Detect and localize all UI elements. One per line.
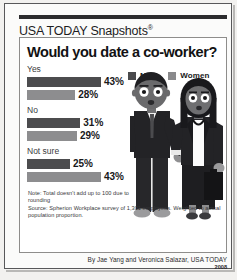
chart-note: Note: Total doesn't add up to 100 due to… xyxy=(28,190,140,203)
brand-rule xyxy=(19,15,227,19)
bar-value-yes-men: 43% xyxy=(104,76,124,87)
bar-value-no-women: 29% xyxy=(80,130,100,141)
bar-row-no-men: 31% xyxy=(27,117,147,128)
bar-row-yes-men: 43% xyxy=(27,76,147,87)
bar-yes-women xyxy=(27,90,75,100)
bar-value-not-sure-women: 43% xyxy=(104,171,124,182)
bar-row-not-sure-men: 25% xyxy=(27,158,147,169)
woman-figure xyxy=(171,78,225,220)
chart-title: Would you date a co-worker? xyxy=(27,44,223,61)
brand-title: USA TODAY Snapshots® xyxy=(19,20,227,35)
bar-not-sure-women xyxy=(27,172,101,182)
bar-chart: Yes 43% 28% No 31% xyxy=(27,64,147,187)
bar-value-yes-women: 28% xyxy=(78,89,98,100)
bar-group-not-sure: Not sure 25% 43% xyxy=(27,146,147,182)
bar-group-label-not-sure: Not sure xyxy=(27,146,147,157)
bar-not-sure-men xyxy=(27,159,70,169)
bar-no-men xyxy=(27,118,80,128)
byline-year: 2008 xyxy=(19,264,227,271)
bar-value-not-sure-men: 25% xyxy=(73,158,93,169)
bar-group-yes: Yes 43% 28% xyxy=(27,64,147,100)
bar-row-yes-women: 28% xyxy=(27,89,147,100)
frame-shadow-right xyxy=(233,5,235,271)
bar-group-label-yes: Yes xyxy=(27,64,147,75)
usa-today-snapshot: USA TODAY Snapshots® Would you date a co… xyxy=(0,0,237,280)
chart-source: Source: Spherion Workplace survey of 1,3… xyxy=(28,205,227,218)
bar-row-not-sure-women: 43% xyxy=(27,171,147,182)
bar-value-no-men: 31% xyxy=(83,117,103,128)
bar-group-label-no: No xyxy=(27,105,147,116)
bar-group-no: No 31% 29% xyxy=(27,105,147,141)
registered-mark-icon: ® xyxy=(148,24,153,31)
byline-credit: By Jae Yang and Veronica Salazar, USA TO… xyxy=(19,256,227,264)
bar-yes-men xyxy=(27,77,101,87)
chart-card: Would you date a co-worker? Men Women xyxy=(19,37,227,253)
bar-no-women xyxy=(27,131,77,141)
snapshot-frame: USA TODAY Snapshots® Would you date a co… xyxy=(4,3,232,269)
bar-row-no-women: 29% xyxy=(27,130,147,141)
